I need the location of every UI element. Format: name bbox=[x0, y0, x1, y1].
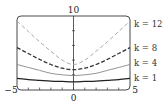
legend-k8: k = 8 bbox=[134, 43, 157, 53]
chart-svg: 10 −5 0 5 k = 12 k = 8 k = 4 k = 1 bbox=[0, 0, 163, 110]
x-max-label: 5 bbox=[132, 85, 138, 95]
legend-k1: k = 1 bbox=[134, 73, 157, 83]
x-min-label: −5 bbox=[4, 85, 18, 95]
legend-k12: k = 12 bbox=[134, 19, 163, 29]
x-zero-label: 0 bbox=[71, 93, 77, 103]
legend-k4: k = 4 bbox=[134, 58, 157, 68]
y-max-label: 10 bbox=[68, 5, 80, 15]
